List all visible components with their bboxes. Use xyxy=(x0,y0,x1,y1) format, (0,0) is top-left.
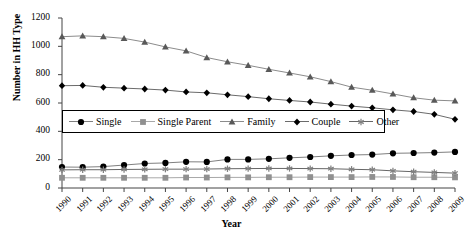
data-point-square xyxy=(225,174,231,180)
data-point-circle xyxy=(78,118,84,124)
data-point-circle xyxy=(431,149,437,155)
data-point-circle xyxy=(245,156,251,162)
data-point-diamond xyxy=(245,93,251,100)
chart-legend: SingleSingle ParentFamilyCoupleOther xyxy=(62,110,385,133)
series-single-parent xyxy=(59,174,458,181)
data-point-square xyxy=(100,175,106,181)
data-point-diamond xyxy=(100,84,106,91)
legend-entry-single[interactable]: Single xyxy=(69,116,122,127)
data-point-diamond xyxy=(162,87,168,94)
data-point-square xyxy=(349,174,355,180)
data-point-square xyxy=(204,175,210,181)
legend-entry-couple[interactable]: Couple xyxy=(285,116,341,127)
data-point-diamond xyxy=(59,82,65,89)
data-point-diamond xyxy=(293,118,299,125)
data-point-diamond xyxy=(121,85,127,92)
legend-entry-other[interactable]: Other xyxy=(349,116,399,127)
data-point-circle xyxy=(266,156,272,162)
data-point-circle xyxy=(307,154,313,160)
legend-label: Single xyxy=(96,116,122,127)
data-point-square xyxy=(390,174,396,180)
data-point-diamond xyxy=(79,82,85,89)
legend-entry-family[interactable]: Family xyxy=(220,116,275,127)
data-point-diamond xyxy=(328,101,334,108)
data-point-diamond xyxy=(266,95,272,102)
data-point-diamond xyxy=(307,99,313,106)
data-point-square xyxy=(163,175,169,181)
legend-label: Other xyxy=(376,116,399,127)
data-point-circle xyxy=(411,150,417,156)
data-point-square xyxy=(369,174,375,180)
y-tick-label: 800 xyxy=(10,68,50,78)
data-point-square xyxy=(121,175,127,181)
data-point-square xyxy=(328,174,334,180)
data-point-circle xyxy=(183,159,189,165)
y-tick-label: 400 xyxy=(10,125,50,135)
data-point-diamond xyxy=(204,89,210,96)
data-point-diamond xyxy=(452,116,458,123)
data-point-circle xyxy=(452,149,458,155)
data-point-diamond xyxy=(431,111,437,118)
series-layer xyxy=(59,32,459,180)
series-other xyxy=(59,165,458,176)
legend-swatch-asterisk-icon xyxy=(349,117,373,127)
legend-swatch-triangle-icon xyxy=(220,117,244,127)
series-single xyxy=(59,149,458,171)
y-tick-label: 1200 xyxy=(10,12,50,22)
legend-entry-single-parent[interactable]: Single Parent xyxy=(131,116,212,127)
y-tick-label: 0 xyxy=(10,182,50,192)
legend-swatch-circle-icon xyxy=(69,117,93,127)
data-point-square xyxy=(245,174,251,180)
data-point-circle xyxy=(142,160,148,166)
legend-swatch-diamond-icon xyxy=(285,117,309,127)
data-point-circle xyxy=(390,150,396,156)
y-tick-label: 600 xyxy=(10,97,50,107)
data-point-square xyxy=(287,174,293,180)
data-point-asterisk xyxy=(359,118,365,124)
y-tick-label: 200 xyxy=(10,153,50,163)
data-point-square xyxy=(80,175,86,181)
legend-swatch-square-icon xyxy=(131,117,155,127)
series-family xyxy=(59,32,459,103)
data-point-diamond xyxy=(348,103,354,110)
data-point-circle xyxy=(328,153,334,159)
data-point-diamond xyxy=(410,108,416,115)
data-point-circle xyxy=(286,155,292,161)
data-point-square xyxy=(140,119,146,125)
data-point-diamond xyxy=(183,89,189,96)
y-tick-label: 1000 xyxy=(10,40,50,50)
legend-label: Couple xyxy=(312,116,341,127)
data-point-circle xyxy=(224,156,230,162)
data-point-square xyxy=(183,175,189,181)
data-point-circle xyxy=(369,151,375,157)
data-point-circle xyxy=(348,152,354,158)
data-point-square xyxy=(266,174,272,180)
data-point-circle xyxy=(204,159,210,165)
legend-label: Family xyxy=(247,116,275,127)
data-point-triangle xyxy=(229,118,236,124)
data-point-diamond xyxy=(142,86,148,93)
data-point-square xyxy=(59,175,65,181)
data-point-square xyxy=(411,174,417,180)
data-point-diamond xyxy=(390,106,396,113)
legend-label: Single Parent xyxy=(158,116,212,127)
data-point-square xyxy=(142,175,148,181)
data-point-diamond xyxy=(224,91,230,98)
data-point-diamond xyxy=(286,97,292,104)
data-point-circle xyxy=(162,160,168,166)
data-point-square xyxy=(307,174,313,180)
